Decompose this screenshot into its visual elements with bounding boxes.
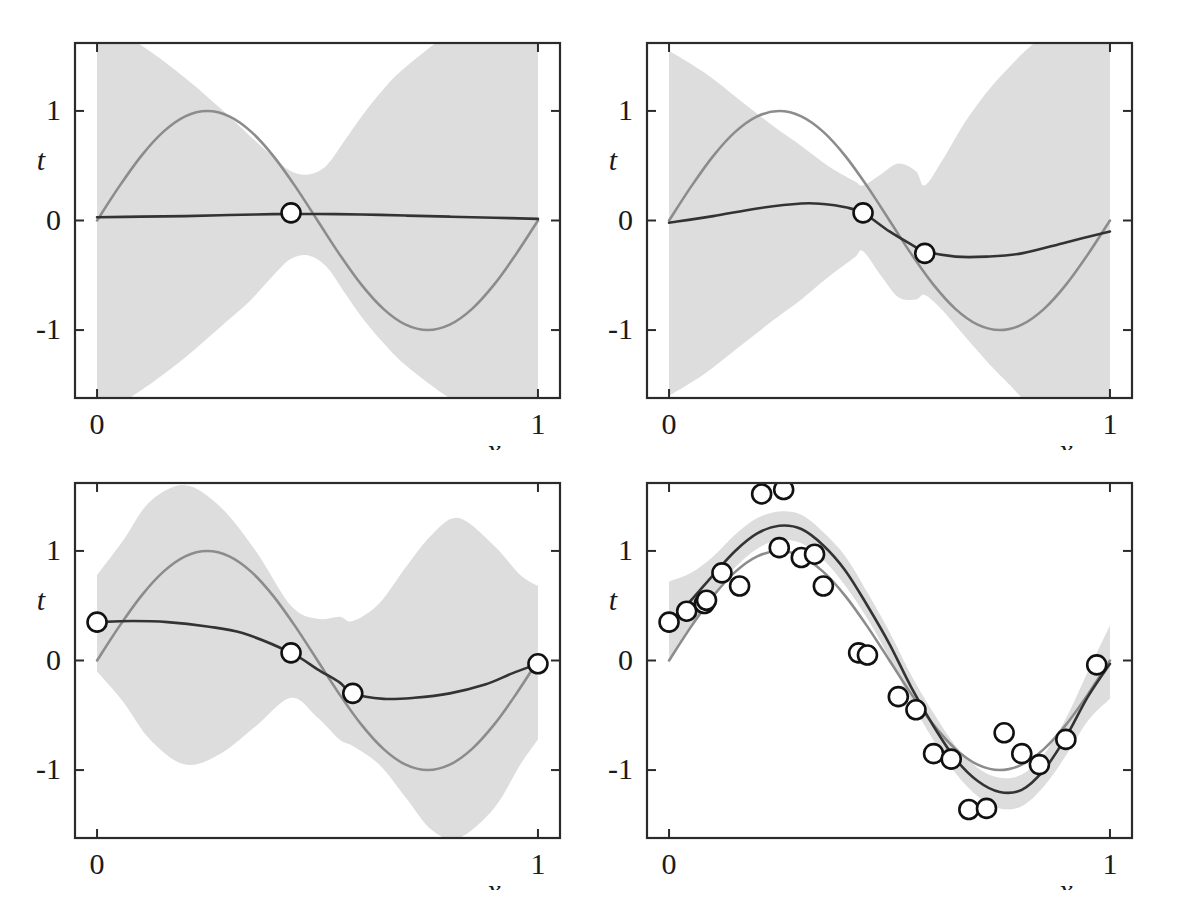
x-tick-label: 1 bbox=[530, 407, 545, 440]
data-point bbox=[942, 750, 961, 769]
x-tick-label: 0 bbox=[90, 407, 105, 440]
data-point bbox=[712, 563, 731, 582]
data-point bbox=[977, 799, 996, 818]
data-point bbox=[889, 687, 908, 706]
y-tick-label: 0 bbox=[618, 643, 633, 676]
panel-bottom-right-svg: 10-101tx bbox=[572, 440, 1162, 890]
x-tick-label: 1 bbox=[1102, 407, 1117, 440]
data-point bbox=[1056, 730, 1075, 749]
y-tick-label: 1 bbox=[618, 93, 633, 126]
x-tick-label: 0 bbox=[662, 847, 677, 880]
panel-top-right-svg: 10-101tx bbox=[572, 0, 1162, 450]
panel-bottom-left-svg: 10-101tx bbox=[0, 440, 590, 890]
data-point bbox=[343, 684, 362, 703]
x-axis-label: x bbox=[1058, 873, 1073, 890]
data-point bbox=[805, 545, 824, 564]
data-point bbox=[995, 723, 1014, 742]
panel-bottom-right: 10-101tx bbox=[572, 440, 1162, 890]
data-point bbox=[854, 203, 873, 222]
y-tick-label: -1 bbox=[36, 312, 61, 345]
y-tick-label: 1 bbox=[618, 533, 633, 566]
y-tick-label: -1 bbox=[608, 752, 633, 785]
y-axis-label: t bbox=[609, 583, 618, 616]
data-point bbox=[730, 576, 749, 595]
data-point bbox=[814, 576, 833, 595]
y-tick-label: 0 bbox=[46, 203, 61, 236]
data-point bbox=[752, 484, 771, 503]
y-tick-label: 0 bbox=[618, 203, 633, 236]
y-tick-label: 1 bbox=[46, 93, 61, 126]
panel-top-right: 10-101tx bbox=[572, 0, 1162, 450]
panel-bottom-left: 10-101tx bbox=[0, 440, 590, 890]
data-point bbox=[858, 646, 877, 665]
observation-markers bbox=[282, 203, 301, 222]
panel-top-left-svg: 10-101tx bbox=[0, 0, 590, 450]
data-point bbox=[1030, 755, 1049, 774]
data-point bbox=[1087, 655, 1106, 674]
y-tick-label: -1 bbox=[36, 752, 61, 785]
x-tick-label: 0 bbox=[90, 847, 105, 880]
y-tick-label: -1 bbox=[608, 312, 633, 345]
data-point bbox=[677, 602, 696, 621]
panel-top-left: 10-101tx bbox=[0, 0, 590, 450]
y-axis-label: t bbox=[609, 143, 618, 176]
x-tick-label: 1 bbox=[530, 847, 545, 880]
y-axis-label: t bbox=[37, 143, 46, 176]
x-tick-label: 1 bbox=[1102, 847, 1117, 880]
y-axis-label: t bbox=[37, 583, 46, 616]
data-point bbox=[959, 800, 978, 819]
y-tick-label: 0 bbox=[46, 643, 61, 676]
data-point bbox=[88, 613, 107, 632]
data-point bbox=[1012, 744, 1031, 763]
y-tick-label: 1 bbox=[46, 533, 61, 566]
data-point bbox=[282, 643, 301, 662]
data-point bbox=[697, 591, 716, 610]
data-point bbox=[660, 613, 679, 632]
data-point bbox=[282, 203, 301, 222]
data-point bbox=[906, 700, 925, 719]
x-tick-label: 0 bbox=[662, 407, 677, 440]
figure-root: 10-101tx 10-101tx 10-101tx 10-101tx bbox=[0, 0, 1181, 899]
data-point bbox=[528, 654, 547, 673]
data-point bbox=[770, 538, 789, 557]
data-point bbox=[915, 244, 934, 263]
x-axis-label: x bbox=[486, 873, 501, 890]
data-point bbox=[924, 744, 943, 763]
